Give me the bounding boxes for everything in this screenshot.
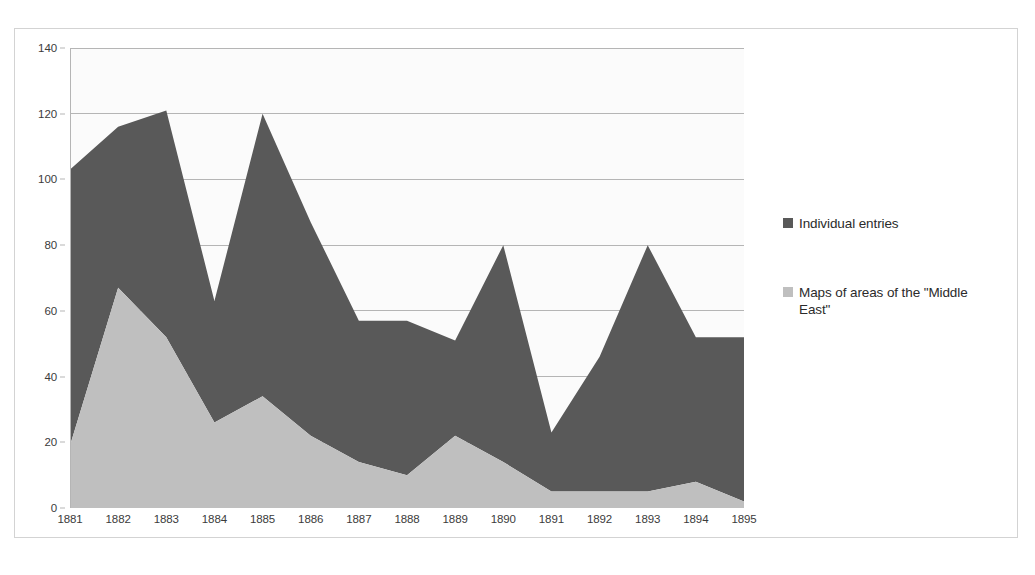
x-axis-tick-label: 1895 [731, 513, 756, 525]
y-axis-tick-mark [60, 179, 65, 180]
chart-container: 020406080100120140 188118821883188418851… [14, 28, 1018, 538]
x-axis-tick-label: 1889 [443, 513, 468, 525]
y-axis-tick-mark [60, 245, 65, 246]
y-axis: 020406080100120140 [15, 48, 65, 508]
x-axis-tick-label: 1888 [394, 513, 419, 525]
x-axis-tick-label: 1884 [202, 513, 227, 525]
legend-item[interactable]: Maps of areas of the "Middle East" [783, 284, 998, 318]
legend-item-label: Maps of areas of the "Middle East" [799, 284, 998, 318]
plot-area [70, 48, 744, 508]
y-axis-tick-mark [60, 376, 65, 377]
x-axis-tick-label: 1886 [298, 513, 323, 525]
y-axis-tick-mark [60, 48, 65, 49]
chart-body: 020406080100120140 188118821883188418851… [15, 29, 1017, 537]
x-axis: 1881188218831884188518861887188818891890… [70, 513, 744, 533]
y-axis-tick-label: 40 [44, 371, 57, 383]
y-axis-tick-label: 140 [38, 42, 57, 54]
x-axis-tick-label: 1891 [539, 513, 564, 525]
y-axis-tick-label: 60 [44, 305, 57, 317]
legend-swatch-icon [783, 287, 793, 297]
x-axis-tick-label: 1894 [683, 513, 708, 525]
x-axis-tick-label: 1885 [250, 513, 275, 525]
x-axis-tick-label: 1893 [635, 513, 660, 525]
chart-legend: Individual entries Maps of areas of the … [783, 215, 998, 370]
x-axis-tick-label: 1883 [154, 513, 179, 525]
stacked-area-plot [70, 48, 744, 508]
x-axis-tick-label: 1892 [587, 513, 612, 525]
x-axis-tick-label: 1890 [491, 513, 516, 525]
y-axis-tick-label: 80 [44, 239, 57, 251]
y-axis-tick-label: 100 [38, 173, 57, 185]
legend-item[interactable]: Individual entries [783, 215, 998, 232]
legend-swatch-icon [783, 218, 793, 228]
x-axis-tick-label: 1887 [346, 513, 371, 525]
x-axis-tick-label: 1881 [57, 513, 82, 525]
y-axis-tick-mark [60, 442, 65, 443]
y-axis-tick-label: 120 [38, 108, 57, 120]
y-axis-tick-label: 20 [44, 436, 57, 448]
y-axis-tick-label: 0 [51, 502, 57, 514]
x-axis-tick-label: 1882 [106, 513, 131, 525]
legend-item-label: Individual entries [799, 215, 899, 232]
y-axis-tick-mark [60, 310, 65, 311]
y-axis-tick-mark [60, 113, 65, 114]
area-series-group [70, 110, 744, 508]
y-axis-tick-mark [60, 508, 65, 509]
